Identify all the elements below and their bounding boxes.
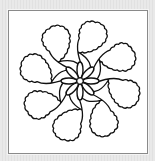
flower-icon [9, 11, 147, 153]
image-frame [8, 10, 148, 154]
flower-group [9, 11, 147, 152]
